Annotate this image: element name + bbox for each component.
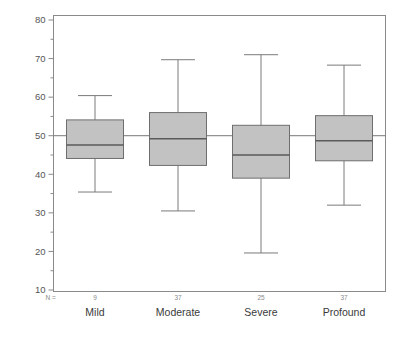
y-axis-tick-label: 70: [35, 53, 46, 64]
n-count-label: 9: [93, 294, 97, 301]
category-label-profound: Profound: [323, 306, 366, 318]
category-label-moderate: Moderate: [156, 306, 201, 318]
y-axis-tick-label: 30: [35, 207, 46, 218]
n-count-label: 37: [174, 294, 182, 301]
n-count-label: 25: [257, 294, 265, 301]
box-severe[interactable]: [233, 125, 290, 178]
boxplot-figure: Standardized POP 10203040506070809Mild37…: [0, 0, 402, 342]
n-count-label: 37: [340, 294, 348, 301]
y-axis-tick-label: 60: [35, 91, 46, 102]
category-label-mild: Mild: [85, 306, 104, 318]
n-row-header: N =: [46, 294, 57, 301]
y-axis-tick-label: 10: [35, 284, 46, 295]
y-axis-tick-label: 20: [35, 246, 46, 257]
boxplot-canvas: 10203040506070809Mild37Moderate25Severe3…: [0, 0, 402, 342]
y-axis-tick-label: 80: [35, 14, 46, 25]
box-mild[interactable]: [67, 120, 124, 159]
y-axis-tick-label: 50: [35, 130, 46, 141]
category-label-severe: Severe: [244, 306, 277, 318]
box-profound[interactable]: [316, 116, 373, 161]
y-axis-tick-label: 40: [35, 169, 46, 180]
